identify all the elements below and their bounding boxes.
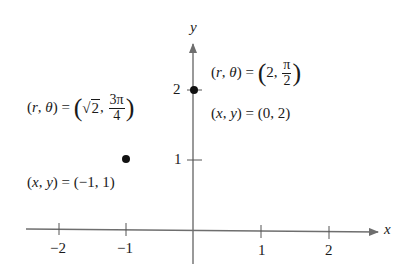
x-tick-label-neg2: −2	[50, 241, 66, 256]
theta-fraction: 3π4	[109, 93, 125, 123]
x-axis	[26, 229, 378, 232]
x-tick-label-1: 1	[258, 243, 266, 258]
x-tick-label-neg1: −1	[117, 241, 133, 256]
sqrt-symbol: √2	[82, 101, 100, 116]
coordinate-plane	[0, 0, 417, 275]
rect-label-point-b: (x, y) = (−1, 1)	[27, 175, 115, 190]
y-axis-label: y	[190, 20, 197, 35]
polar-r: 2	[266, 64, 274, 80]
point-neg1-1-marker	[122, 155, 130, 163]
x-axis-label: x	[384, 222, 391, 237]
x-tick-label-2: 2	[325, 243, 333, 258]
polar-label-point-a: (r, θ) = (2, π2)	[211, 58, 301, 88]
y-tick-label-2: 2	[173, 82, 181, 97]
polar-lhs: (r, θ) =	[211, 64, 258, 80]
polar-lhs: (r, θ) =	[27, 99, 74, 115]
polar-label-point-b: (r, θ) = (√2, 3π4)	[27, 93, 134, 123]
point-0-2-marker	[190, 86, 198, 94]
rect-label-point-a: (x, y) = (0, 2)	[211, 106, 290, 121]
theta-fraction: π2	[282, 58, 291, 88]
y-tick-label-1: 1	[174, 152, 182, 167]
